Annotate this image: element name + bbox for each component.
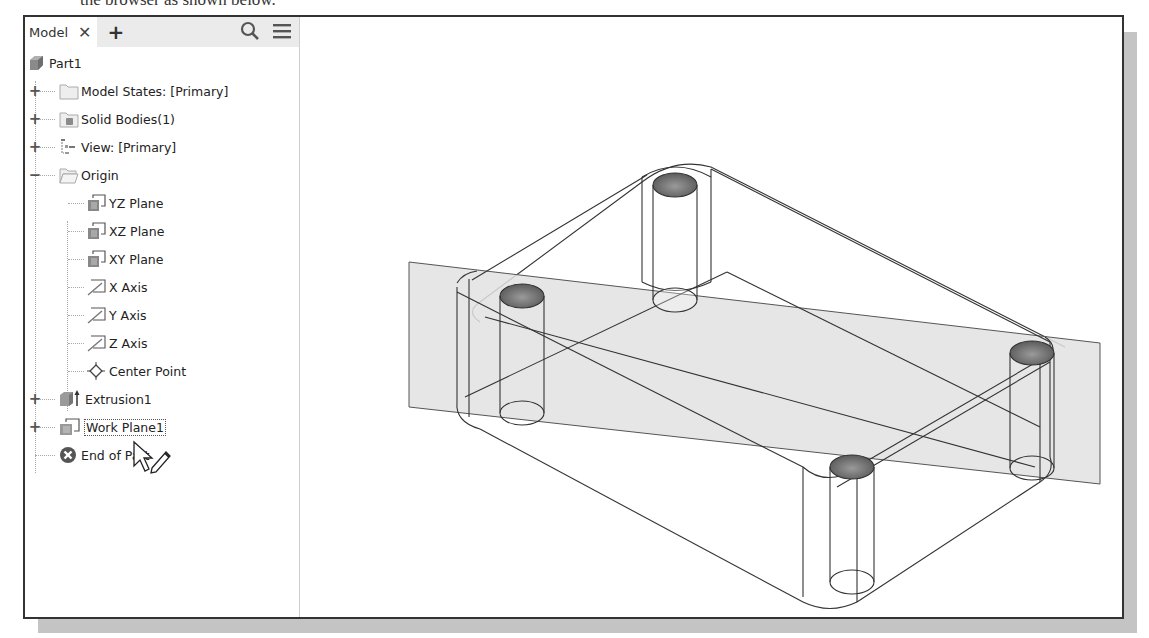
tree-node-part1[interactable]: Part1 [25, 49, 299, 77]
close-icon[interactable]: ✕ [78, 23, 91, 42]
work-plane-icon [87, 194, 105, 212]
work-axis-icon [87, 306, 105, 324]
tree-node-x-axis[interactable]: X Axis [25, 273, 299, 301]
work-plane-icon [87, 222, 105, 240]
work-axis-icon [87, 278, 105, 296]
tree-node-model-states[interactable]: + Model States: [Primary] [25, 77, 299, 105]
book-caption-fragment: the browser as shown below. [80, 0, 276, 10]
view-rep-icon [59, 138, 77, 156]
node-label: X Axis [109, 280, 147, 295]
work-plane-icon [87, 250, 105, 268]
tree-node-xz-plane[interactable]: XZ Plane [25, 217, 299, 245]
node-label: View: [Primary] [81, 140, 176, 155]
node-label: Origin [81, 168, 119, 183]
tree-node-center-point[interactable]: Center Point [25, 357, 299, 385]
node-label: Model States: [Primary] [81, 84, 228, 99]
tree-node-y-axis[interactable]: Y Axis [25, 301, 299, 329]
work-plane-icon [59, 418, 81, 436]
plus-icon[interactable]: + [107, 20, 124, 44]
work-axis-icon [87, 334, 105, 352]
hamburger-menu-icon[interactable] [271, 20, 293, 42]
node-label: Center Point [109, 364, 186, 379]
tree-node-solid-bodies[interactable]: + Solid Bodies(1) [25, 105, 299, 133]
folder-icon [59, 82, 77, 100]
tree-node-view[interactable]: + View: [Primary] [25, 133, 299, 161]
tree-node-z-axis[interactable]: Z Axis [25, 329, 299, 357]
mouse-cursor-icon [132, 440, 178, 480]
tree-node-xy-plane[interactable]: XY Plane [25, 245, 299, 273]
browser-tabbar: Model ✕ + [25, 17, 299, 47]
tree-node-extrusion1[interactable]: + Extrusion1 [25, 385, 299, 413]
part-model-wireframe[interactable] [300, 17, 1122, 617]
search-icon[interactable] [239, 20, 261, 42]
node-label: XZ Plane [109, 224, 164, 239]
inventor-window: Model ✕ + Part1 [23, 15, 1124, 619]
tab-model[interactable]: Model ✕ [25, 17, 97, 47]
node-label: YZ Plane [109, 196, 163, 211]
node-label: Solid Bodies(1) [81, 112, 175, 127]
folder-open-icon [59, 166, 77, 184]
tree-node-yz-plane[interactable]: YZ Plane [25, 189, 299, 217]
part-icon [27, 54, 45, 72]
tree-node-work-plane1[interactable]: + Work Plane1 [25, 413, 299, 441]
node-label: XY Plane [109, 252, 163, 267]
tree-node-origin[interactable]: − Origin [25, 161, 299, 189]
node-label: Work Plane1 [85, 420, 165, 435]
extrusion-icon [59, 390, 81, 408]
model-browser: Model ✕ + Part1 [25, 17, 300, 617]
graphics-viewport[interactable] [300, 17, 1122, 617]
work-point-icon [87, 362, 105, 380]
browser-tree: Part1 + Model States: [Primary] + Solid … [25, 47, 299, 469]
node-label: Part1 [49, 56, 82, 71]
tab-model-label: Model [29, 25, 68, 40]
node-label: Extrusion1 [85, 392, 152, 407]
end-of-part-icon [59, 446, 77, 464]
solid-body-folder-icon [59, 110, 77, 128]
node-label: Z Axis [109, 336, 147, 351]
node-label: Y Axis [109, 308, 147, 323]
